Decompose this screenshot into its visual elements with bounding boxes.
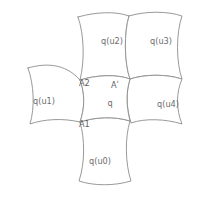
cell-u2[interactable] — [78, 13, 130, 80]
mesh-diagram: q(u2) q(u3) q(u1) q(u4) q(u0) q A2 Aʹ A1 — [0, 0, 207, 203]
cell-label-u0: q(u0) — [89, 156, 111, 166]
cell-label-u3: q(u3) — [150, 36, 172, 46]
mesh-canvas: q(u2) q(u3) q(u1) q(u4) q(u0) q A2 Aʹ A1 — [0, 0, 207, 203]
cell-label-u2: q(u2) — [101, 36, 123, 46]
cell-label-u1: q(u1) — [33, 96, 55, 106]
vertex-label-a-prime: Aʹ — [111, 80, 119, 90]
vertex-label-a2: A2 — [79, 78, 90, 88]
cell-label-u4: q(u4) — [157, 99, 179, 109]
cell-label-center-q: q — [107, 98, 112, 108]
vertex-label-a1: A1 — [79, 119, 90, 129]
cell-u3[interactable] — [125, 12, 182, 79]
